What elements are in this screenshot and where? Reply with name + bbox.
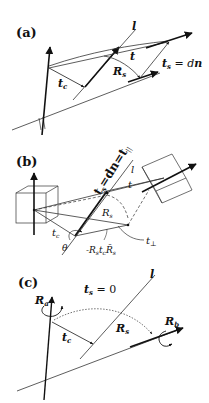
break-mark bbox=[39, 118, 41, 130]
tperp-pointer bbox=[118, 226, 144, 240]
panel-b-label: (b) bbox=[16, 154, 37, 169]
rs-label: Rs bbox=[112, 65, 126, 79]
line-l bbox=[62, 160, 133, 255]
t-path-upper bbox=[49, 41, 168, 66]
point-dot bbox=[106, 192, 109, 195]
final-arrow bbox=[146, 33, 192, 48]
line-l-label: l bbox=[150, 268, 154, 281]
dashed-perp bbox=[128, 190, 149, 225]
screw-motion-diagram: (a) l tc t Rs ts = dn (b) bbox=[0, 0, 209, 403]
base-line bbox=[12, 73, 160, 130]
expr-pointer bbox=[104, 229, 107, 240]
rotation-expression: -RstcR̄s bbox=[86, 244, 116, 256]
ts-zero-label: ts = 0 bbox=[84, 283, 116, 297]
rs-dotted-arc bbox=[54, 309, 152, 334]
line-l-label: l bbox=[131, 164, 134, 175]
panel-b: (b) l ts=dn=t|| bbox=[16, 142, 196, 256]
t-label: t bbox=[130, 50, 135, 63]
panel-a: (a) l tc t Rs ts = dn bbox=[12, 20, 202, 135]
point-dot bbox=[33, 209, 35, 211]
ra-label: Ra bbox=[34, 294, 49, 308]
panel-a-label: (a) bbox=[16, 25, 37, 40]
ray-mid bbox=[34, 210, 128, 225]
tc-label: tc bbox=[62, 331, 72, 345]
rs-label: Rs bbox=[115, 322, 129, 336]
rotated-arrow bbox=[130, 328, 183, 347]
axis-a-arrow bbox=[42, 47, 50, 135]
axis-a-arrow bbox=[44, 297, 52, 400]
rotated-arrow bbox=[128, 72, 158, 82]
ts-dn-label: ts = dn bbox=[162, 57, 202, 71]
t-label: t bbox=[128, 179, 133, 190]
left-cube bbox=[16, 186, 58, 223]
tperp-label: t⊥ bbox=[146, 235, 157, 248]
right-cube-axis bbox=[142, 164, 196, 192]
point-dot bbox=[127, 224, 130, 227]
tc-arrow bbox=[52, 322, 93, 344]
panel-c-label: (c) bbox=[18, 275, 38, 290]
tc-label: tc bbox=[52, 227, 60, 239]
line-l-label: l bbox=[132, 20, 136, 33]
theta-label: θ bbox=[62, 243, 68, 253]
panel-c: (c) ts = 0 Ra l tc Rs Rb bbox=[17, 268, 183, 400]
rs-label: Rs bbox=[101, 207, 113, 219]
rb-label: Rb bbox=[164, 315, 179, 329]
tc-label: tc bbox=[58, 77, 68, 91]
